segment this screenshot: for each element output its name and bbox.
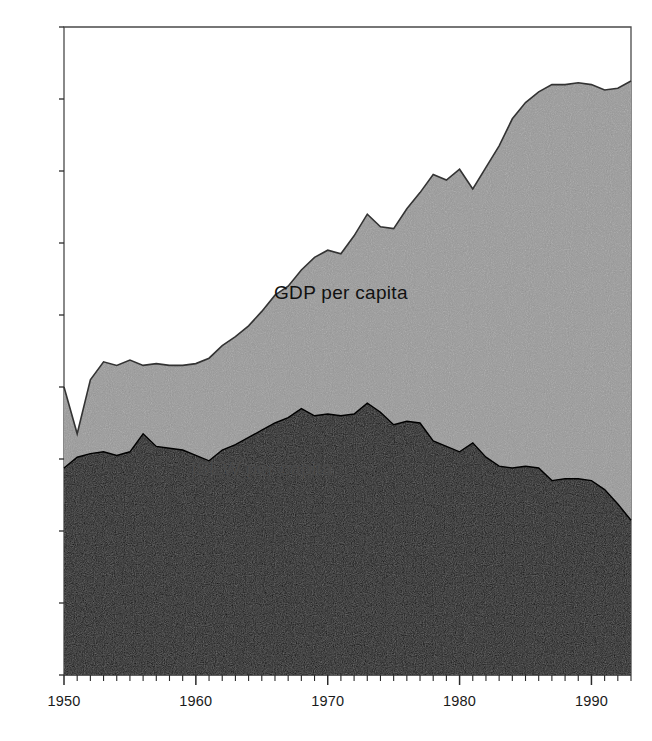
chart-container: GDP per capita ISEW per capita 02.0004.0… [0, 0, 652, 741]
series-annotation-gdp: GDP per capita [274, 282, 408, 303]
area-chart-plot: GDP per capita ISEW per capita [0, 0, 652, 741]
y-axis: 02.0004.0006.0008.00010.00012.00014.0001… [0, 0, 56, 741]
series-annotation-isew: ISEW per capita [191, 458, 333, 479]
